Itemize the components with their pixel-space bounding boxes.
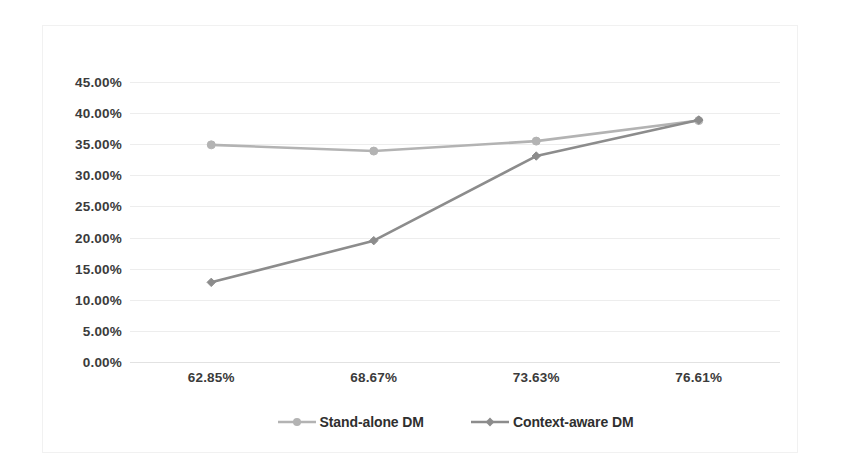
- legend-label: Stand-alone DM: [320, 414, 424, 430]
- series-group: [130, 82, 780, 362]
- y-axis-tick-label: 35.00%: [75, 137, 122, 152]
- data-point-marker: [207, 278, 215, 286]
- y-axis-tick-label: 20.00%: [75, 230, 122, 245]
- chart-legend: Stand-alone DMContext-aware DM: [130, 408, 780, 436]
- legend-entry-1[interactable]: Stand-alone DM: [277, 414, 424, 430]
- x-axis-tick-label: 62.85%: [188, 370, 235, 385]
- y-axis-tick-label: 45.00%: [75, 75, 122, 90]
- legend-entry-2[interactable]: Context-aware DM: [470, 414, 634, 430]
- y-axis-tick-label: 0.00%: [83, 355, 122, 370]
- series-line: [211, 120, 699, 282]
- gridline: [130, 362, 780, 363]
- y-axis-tick-label: 30.00%: [75, 168, 122, 183]
- data-point-marker: [370, 147, 378, 155]
- x-axis-tick-label: 73.63%: [513, 370, 560, 385]
- x-axis-tick-label: 68.67%: [350, 370, 397, 385]
- x-axis-tick-labels: 62.85%68.67%73.63%76.61%: [130, 370, 780, 394]
- series-2: [207, 116, 703, 287]
- legend-circle-marker-icon: [277, 416, 317, 428]
- y-axis-tick-label: 5.00%: [83, 323, 122, 338]
- legend-label: Context-aware DM: [513, 414, 634, 430]
- data-point-marker: [532, 137, 540, 145]
- chart-container: 45.00%40.00%35.00%30.00%25.00%20.00%15.0…: [0, 0, 842, 475]
- y-axis-tick-label: 15.00%: [75, 261, 122, 276]
- plot-area: [130, 82, 780, 362]
- y-axis-tick-label: 10.00%: [75, 292, 122, 307]
- x-axis-tick-label: 76.61%: [675, 370, 722, 385]
- data-point-marker: [207, 141, 215, 149]
- y-axis-tick-label: 25.00%: [75, 199, 122, 214]
- y-axis-tick-label: 40.00%: [75, 106, 122, 121]
- y-axis-tick-labels: 45.00%40.00%35.00%30.00%25.00%20.00%15.0…: [44, 82, 126, 362]
- legend-diamond-marker-icon: [470, 416, 510, 428]
